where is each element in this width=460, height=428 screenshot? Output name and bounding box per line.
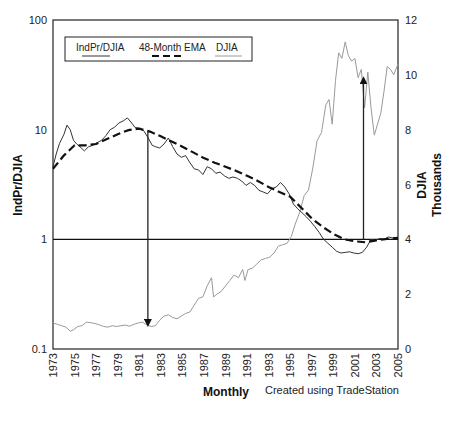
x-tick-label: 1995 [284, 353, 296, 377]
x-tick-label: 1987 [198, 353, 210, 377]
plot-area [53, 20, 398, 349]
footer-credit: Created using TradeStation [265, 384, 399, 396]
x-tick-label: 1993 [263, 353, 275, 377]
x-tick-label: 1977 [90, 353, 102, 377]
x-axis: 1973197519771979198119831985198719891991… [47, 353, 404, 377]
right-tick-label: 4 [405, 233, 411, 245]
x-tick-label: 1997 [306, 353, 318, 377]
x-axis-title: Monthly [203, 385, 249, 399]
legend-label-djia: DJIA [216, 42, 238, 53]
x-tick-label: 1991 [241, 353, 253, 377]
x-tick-label: 1973 [47, 353, 59, 377]
legend-label-indpr-djia: IndPr/DJIA [76, 42, 125, 53]
x-tick-label: 1985 [176, 353, 188, 377]
x-tick-label: 2003 [370, 353, 382, 377]
series-48-month-ema [53, 129, 398, 243]
left-tick-label: 10 [35, 124, 47, 136]
x-tick-label: 1975 [69, 353, 81, 377]
right-tick-label: 2 [405, 288, 411, 300]
left-tick-label: 1 [41, 233, 47, 245]
right-tick-label: 0 [405, 343, 411, 355]
left-tick-label: 100 [29, 14, 47, 26]
series-indpr-djia [53, 118, 398, 254]
y-axis-left-title: IndPr/DJIA [11, 154, 25, 216]
x-tick-label: 2001 [349, 353, 361, 377]
legend-label-48-month-ema: 48-Month EMA [139, 42, 206, 53]
x-tick-label: 1981 [133, 353, 145, 377]
y-axis-right-title-line2: Thousands [430, 153, 444, 217]
x-tick-label: 1983 [155, 353, 167, 377]
right-tick-label: 10 [405, 69, 417, 81]
x-tick-label: 1999 [327, 353, 339, 377]
x-tick-label: 1989 [220, 353, 232, 377]
chart: 1001010.1 121086420 19731975197719791981… [0, 0, 460, 428]
right-tick-label: 6 [405, 179, 411, 191]
left-axis: 1001010.1 [29, 14, 47, 355]
series-djia [53, 42, 398, 331]
right-tick-label: 12 [405, 14, 417, 26]
legend: IndPr/DJIA 48-Month EMA DJIA [65, 37, 252, 61]
y-axis-right-title-line1: DJIA [415, 171, 429, 199]
left-tick-label: 0.1 [32, 343, 47, 355]
x-tick-label: 1979 [112, 353, 124, 377]
right-tick-label: 8 [405, 124, 411, 136]
x-tick-label: 2005 [392, 353, 404, 377]
